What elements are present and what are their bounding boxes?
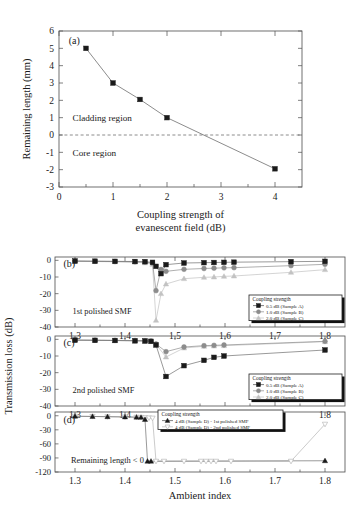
panel-c-data-point bbox=[182, 345, 187, 350]
panel-a-ytick-label: -2 bbox=[46, 165, 54, 175]
panel-b-series-line bbox=[75, 261, 325, 291]
panel-b-ytick-label: -10 bbox=[40, 272, 51, 282]
panel-c-ytick-label: -10 bbox=[40, 351, 51, 361]
panel-a-data-point bbox=[111, 81, 116, 86]
panel-d-ytick-label: 0 bbox=[47, 411, 51, 421]
panel-b-legend-label: 2.0 dB (Sample C) bbox=[266, 316, 304, 321]
shared-ylabel: Transmission loss (dB) bbox=[3, 317, 15, 415]
panel-c-data-point bbox=[154, 343, 159, 348]
shared-xlabel: Ambient index bbox=[169, 490, 232, 501]
panel-b-data-point bbox=[232, 265, 237, 270]
panel-b-data-point bbox=[153, 318, 158, 323]
panel-b-data-point bbox=[164, 269, 169, 274]
panel-a-ytick-label: 5 bbox=[49, 44, 54, 54]
panel-b-ytick-label: 0 bbox=[47, 255, 51, 265]
panel-b-legend-marker bbox=[256, 310, 260, 314]
panel-d-xtick-label: 1.5 bbox=[169, 476, 181, 486]
panel-c-ytick-label: -30 bbox=[40, 384, 51, 394]
panel-c-data-point bbox=[182, 363, 187, 368]
panel-b-data-point bbox=[212, 266, 217, 271]
panel-b-data-point bbox=[222, 260, 227, 265]
panel-a-xlabel-line2: evanescent field (dB) bbox=[136, 222, 226, 234]
panel-a-ytick-label: -3 bbox=[46, 182, 54, 192]
panel-c-data-point bbox=[143, 339, 148, 344]
panel-b-legend-label: 0.5 dB (Sample A) bbox=[266, 304, 304, 309]
panel-c-legend-marker bbox=[256, 389, 260, 393]
panel-a-frame bbox=[59, 31, 302, 187]
panel-c-data-point bbox=[149, 339, 154, 344]
panel-c-data-point bbox=[93, 338, 98, 343]
panel-c-data-point bbox=[323, 348, 328, 353]
panel-c-data-point bbox=[113, 338, 118, 343]
panel-d: 0-30-60-90-1201.31.41.51.61.71.8Remainin… bbox=[35, 410, 345, 486]
panel-c-data-point bbox=[164, 374, 169, 379]
panel-c-legend-label: 0.5 dB (Sample A) bbox=[266, 383, 304, 388]
panel-c-data-point bbox=[164, 349, 169, 354]
panel-c-legend-label: 2.0 dB (Sample C) bbox=[266, 395, 304, 400]
panel-d-annotation: Remaining length < 0 bbox=[71, 456, 144, 465]
panel-c: 0-10-20-30-401.31.41.51.61.71.82nd polis… bbox=[40, 334, 345, 420]
panel-c-ytick-label: -20 bbox=[40, 368, 51, 378]
panel-b-data-point bbox=[212, 260, 217, 265]
panel-c-annotation: 2nd polished SMF bbox=[73, 386, 135, 395]
panel-a-ytick-label: 3 bbox=[49, 78, 54, 88]
panel-d-legend-label: 4 dB (Sample D) - 2nd polished SMF bbox=[175, 425, 250, 430]
panel-a-annotation: Cladding region bbox=[73, 113, 133, 123]
panel-d-tag: (d) bbox=[64, 414, 76, 426]
panel-c-legend-marker bbox=[257, 383, 261, 387]
panel-a-data-point bbox=[273, 167, 278, 172]
panel-d-ytick-label: -90 bbox=[40, 453, 51, 463]
panel-a-tag: (a) bbox=[69, 35, 80, 47]
panel-a-xtick-label: 0 bbox=[57, 192, 62, 202]
panel-b-ytick-label: -30 bbox=[40, 305, 51, 315]
panel-d-data-point bbox=[150, 416, 155, 421]
panel-a-ytick-label: -1 bbox=[46, 148, 54, 158]
panel-b-data-point bbox=[232, 260, 237, 265]
panel-b-legend-marker bbox=[257, 304, 261, 308]
panel-c-data-point bbox=[133, 339, 138, 344]
panel-d-xtick-label: 1.4 bbox=[119, 476, 131, 486]
panel-c-data-point bbox=[212, 343, 217, 348]
panel-c-ytick-label: -40 bbox=[40, 401, 51, 411]
panel-b-data-point bbox=[158, 291, 163, 296]
panel-a-data-point bbox=[165, 115, 170, 120]
panel-a-xtick-label: 1 bbox=[111, 192, 116, 202]
panel-c-ytick-label: 0 bbox=[47, 334, 51, 344]
panel-d-xtick-label: 1.8 bbox=[319, 476, 331, 486]
panel-b-data-point bbox=[322, 267, 327, 272]
panel-a: -3-2-1012345601234Cladding regionCore re… bbox=[21, 26, 302, 234]
panel-c-data-point bbox=[222, 354, 227, 359]
panel-a-annotation: Core region bbox=[73, 148, 117, 158]
panel-c-data-point bbox=[323, 339, 328, 344]
panel-b-data-point bbox=[182, 267, 187, 272]
multi-panel-figure: -3-2-1012345601234Cladding regionCore re… bbox=[0, 0, 357, 521]
panel-d-ytick-label: -120 bbox=[35, 467, 51, 477]
panel-d-xtick-label: 1.3 bbox=[69, 476, 81, 486]
panel-b-data-point bbox=[159, 271, 164, 276]
panel-b-data-point bbox=[143, 259, 148, 264]
panel-d-ytick-label: -30 bbox=[40, 425, 51, 435]
panel-d-legend-title: Coupling strength bbox=[162, 411, 200, 417]
figure-root: -3-2-1012345601234Cladding regionCore re… bbox=[0, 0, 357, 521]
panel-b-data-point bbox=[202, 266, 207, 271]
panel-c-data-point bbox=[202, 358, 207, 363]
panel-d-ytick-label: -60 bbox=[40, 439, 51, 449]
panel-c-data-point bbox=[222, 343, 227, 348]
panel-a-ytick-label: 0 bbox=[49, 130, 54, 140]
panel-a-ytick-label: 4 bbox=[49, 61, 54, 71]
panel-b-tag: (b) bbox=[64, 258, 76, 270]
panel-b-data-point bbox=[164, 262, 169, 267]
panel-d-legend-label: 4 dB (Sample D) - 1st polished SMF bbox=[175, 419, 249, 424]
panel-a-xtick-label: 3 bbox=[219, 192, 224, 202]
panel-a-ytick-label: 6 bbox=[49, 26, 54, 36]
panel-d-xtick-label: 1.6 bbox=[219, 476, 231, 486]
panel-b-data-point bbox=[133, 259, 138, 264]
panel-b-legend-title: Coupling strength bbox=[253, 296, 291, 302]
panel-a-xtick-label: 2 bbox=[165, 192, 170, 202]
panel-b-data-point bbox=[113, 259, 118, 264]
panel-b-ytick-label: -20 bbox=[40, 289, 51, 299]
panel-c-tag: (c) bbox=[64, 337, 75, 349]
panel-b-data-point bbox=[93, 259, 98, 264]
panel-b-legend-label: 1.0 dB (Sample B) bbox=[266, 310, 304, 315]
panel-c-legend-title: Coupling strength bbox=[253, 375, 291, 381]
